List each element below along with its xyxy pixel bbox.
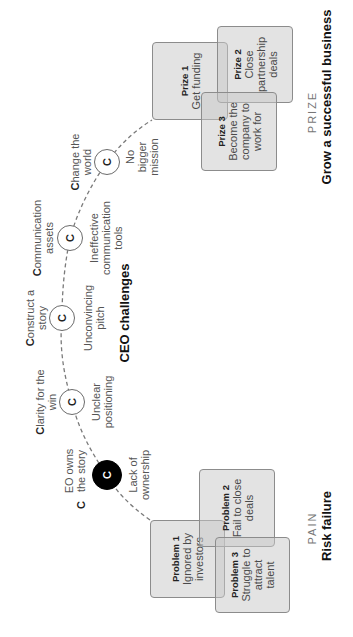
node-change-world: C [94, 149, 120, 175]
node-label-below: Unclear positioning [90, 372, 114, 432]
node-label-below: No bigger mission [124, 135, 160, 179]
problem-2-box: Problem 2 Fail to close deals [199, 469, 275, 547]
prize-label: PRIZE [306, 91, 318, 133]
node-label-above: Communication assets [31, 196, 55, 280]
prize-title: Prize 2 [232, 49, 243, 80]
node-label-above: Clarity for the win [34, 367, 58, 437]
prize-text: Become the company to work for [227, 101, 263, 163]
c-glyph-icon: C [66, 398, 78, 406]
c-glyph-icon: C [64, 234, 76, 242]
c-glyph-icon: C [56, 314, 68, 322]
prize-text: Close partnership deals [243, 35, 279, 95]
problem-text: Fail to close deals [231, 478, 255, 538]
prize-title: Prize 1 [179, 66, 190, 97]
prize-text: Get funding [190, 53, 202, 110]
prize-3-box: Prize 3 Become the company to work for [201, 92, 277, 171]
node-communication: C [57, 225, 83, 251]
problem-title: Problem 2 [220, 485, 231, 531]
pain-title: Risk failure [319, 491, 334, 561]
node-label-above: CEO owns the story [63, 441, 87, 509]
pain-label: PAIN [306, 512, 318, 545]
node-clarity: C [59, 389, 85, 415]
problem-title: Problem 1 [170, 536, 181, 582]
prize-title: Grow a successful business [319, 10, 334, 185]
problem-title: Problem 3 [229, 552, 240, 598]
c-glyph-icon: C [101, 471, 113, 479]
node-ceo-owns-story: C [92, 460, 122, 490]
c-glyph-icon: C [101, 158, 113, 166]
node-label-above: Construct a story [24, 288, 48, 348]
node-label-below: Unconvincing pitch [82, 278, 106, 358]
prize-title: Prize 3 [216, 116, 227, 147]
problem-3-box: Problem 3 Struggle to attract talent [215, 537, 290, 613]
problem-text: Struggle to attract talent [240, 547, 276, 603]
node-label-above: Change the world [69, 130, 93, 194]
diagram-canvas: Problem 1 Ignored by investors Problem 2… [0, 0, 353, 637]
node-construct: C [49, 305, 75, 331]
challenges-title: CEO challenges [117, 264, 132, 363]
node-label-below: Lack of ownership [127, 445, 151, 505]
